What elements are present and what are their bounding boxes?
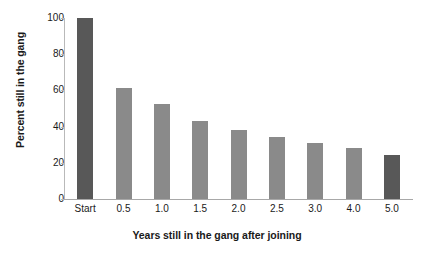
x-axis-line [64, 199, 413, 200]
y-axis-tick-labels: 020406080100 [40, 18, 64, 199]
y-axis-tick-mark [61, 127, 64, 128]
bar [269, 137, 285, 199]
x-axis-title: Years still in the gang after joining [0, 229, 434, 241]
bar [116, 88, 132, 199]
plot-area [66, 18, 411, 199]
y-axis-title: Percent still in the gang [13, 0, 27, 190]
y-axis-line [64, 18, 65, 199]
y-axis-tick-mark [61, 163, 64, 164]
y-axis-tick-mark [61, 199, 64, 200]
bar [307, 143, 323, 199]
x-axis-tick-label: 5.0 [369, 203, 415, 215]
bar [154, 104, 170, 199]
x-axis-tick-labels: Start0.51.01.52.02.53.04.05.0 [66, 203, 411, 217]
y-axis-tick-mark [61, 54, 64, 55]
bar [192, 121, 208, 199]
bar-chart-figure: Percent still in the gang 020406080100 S… [0, 0, 434, 253]
bars-layer [66, 18, 411, 199]
y-axis-tick-mark [61, 90, 64, 91]
bar [231, 130, 247, 199]
y-axis-tick-mark [61, 18, 64, 19]
bar [77, 18, 93, 199]
bar [346, 148, 362, 199]
bar [384, 155, 400, 199]
